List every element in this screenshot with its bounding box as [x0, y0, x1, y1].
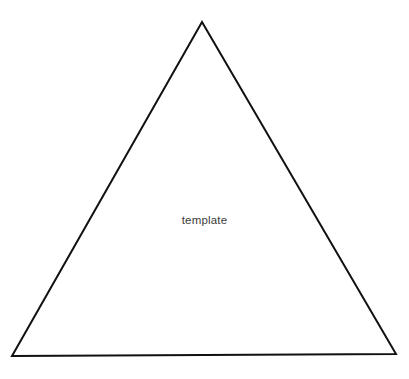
drawing-canvas: template [0, 0, 409, 379]
triangle-shape-svg [0, 0, 409, 379]
triangle-label: template [0, 214, 409, 226]
triangle-outline [12, 22, 396, 356]
